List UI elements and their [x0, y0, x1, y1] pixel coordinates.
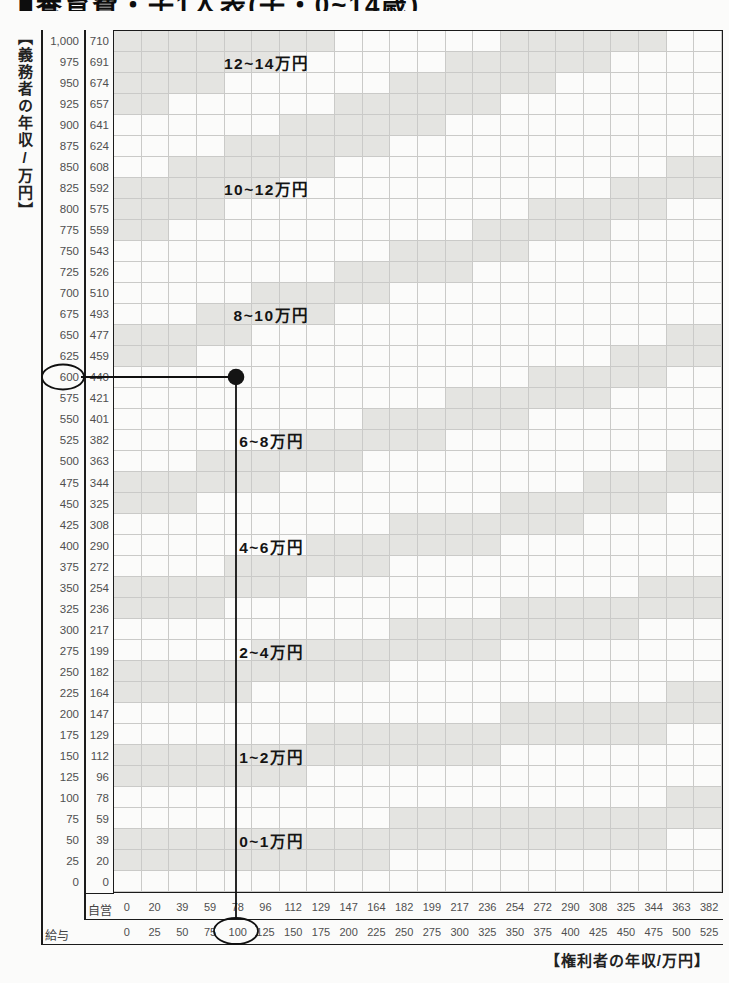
y-self-value: 147: [86, 704, 109, 725]
x-self-value: 382: [695, 895, 723, 919]
y-self-value: 543: [86, 240, 109, 261]
zone-label: 12~14万円: [224, 51, 310, 73]
x-salary-value: 175: [307, 920, 335, 944]
y-salary-value: 625: [42, 346, 79, 367]
x-self-value: 325: [612, 895, 640, 919]
y-salary-value: 25: [42, 851, 79, 872]
page-title-text: ■養育費・子1人表(子・0~14歳): [18, 0, 718, 11]
x-salary-value: 475: [640, 920, 668, 944]
x-self-value: 78: [224, 895, 252, 919]
y-salary-value: 400: [42, 535, 79, 556]
y-salary-value: 325: [42, 598, 79, 619]
x-self-value: 20: [141, 895, 169, 919]
x-axis-self-employed-values: 0203959789611212914716418219921723625427…: [113, 895, 723, 919]
y-self-value: 440: [86, 367, 109, 388]
y-salary-value: 475: [42, 472, 79, 493]
y-salary-value: 0: [42, 872, 79, 893]
y-salary-value: 350: [42, 577, 79, 598]
y-self-value: 254: [86, 577, 109, 598]
y-salary-value: 600: [42, 367, 79, 388]
x-salary-value: 525: [695, 920, 723, 944]
x-row-label-salary: 給与: [45, 926, 69, 943]
y-self-value: 608: [86, 156, 109, 177]
y-salary-value: 575: [42, 388, 79, 409]
x-self-value: 39: [168, 895, 196, 919]
x-salary-value: 500: [668, 920, 696, 944]
y-self-value: 129: [86, 725, 109, 746]
y-salary-value: 875: [42, 135, 79, 156]
y-self-value: 592: [86, 177, 109, 198]
x-salary-value: 425: [584, 920, 612, 944]
x-self-value: 254: [501, 895, 529, 919]
y-salary-value: 775: [42, 219, 79, 240]
x-self-value: 96: [252, 895, 280, 919]
y-salary-value: 200: [42, 704, 79, 725]
x-axis-salary-values: 0255075100125150175200225250275300325350…: [113, 920, 723, 944]
y-self-value: 325: [86, 493, 109, 514]
x-salary-value: 225: [363, 920, 391, 944]
x-self-value: 236: [473, 895, 501, 919]
x-self-value: 344: [640, 895, 668, 919]
x-salary-value: 25: [141, 920, 169, 944]
zone-label: 4~6万円: [239, 535, 305, 557]
y-salary-value: 650: [42, 325, 79, 346]
y-self-value: 363: [86, 451, 109, 472]
zone-label: 1~2万円: [239, 745, 305, 767]
y-self-value: 657: [86, 93, 109, 114]
y-self-value: 691: [86, 51, 109, 72]
y-self-value: 344: [86, 472, 109, 493]
y-self-value: 290: [86, 535, 109, 556]
y-salary-value: 100: [42, 788, 79, 809]
y-salary-value: 900: [42, 114, 79, 135]
y-axis-title: 【義務者の年収/万円】: [14, 30, 34, 270]
zone-label: 8~10万円: [234, 303, 310, 325]
x-self-value: 199: [418, 895, 446, 919]
x-salary-value: 100: [224, 920, 252, 944]
y-self-value: 20: [86, 851, 109, 872]
y-salary-value: 425: [42, 514, 79, 535]
y-self-value: 0: [86, 872, 109, 893]
y-salary-value: 1,000: [42, 30, 79, 51]
y-salary-value: 250: [42, 661, 79, 682]
y-self-value: 401: [86, 409, 109, 430]
x-salary-value: 300: [446, 920, 474, 944]
y-self-value: 199: [86, 640, 109, 661]
x-self-value: 112: [279, 895, 307, 919]
y-self-value: 493: [86, 304, 109, 325]
y-self-value: 459: [86, 346, 109, 367]
zone-label: 0~1万円: [239, 829, 305, 851]
y-self-value: 59: [86, 809, 109, 830]
x-salary-value: 125: [252, 920, 280, 944]
x-salary-value: 450: [612, 920, 640, 944]
x-salary-value: 275: [418, 920, 446, 944]
zone-label: 6~8万円: [239, 429, 305, 451]
x-self-value: 147: [335, 895, 363, 919]
x-salary-value: 50: [168, 920, 196, 944]
y-salary-value: 275: [42, 640, 79, 661]
y-self-value: 308: [86, 514, 109, 535]
scanned-chart-page: { "title_clipped": "■養育費・子1人表(子・0~14歳)",…: [0, 0, 729, 983]
zone-label: 2~4万円: [239, 640, 305, 662]
y-self-value: 382: [86, 430, 109, 451]
y-salary-value: 750: [42, 240, 79, 261]
x-salary-value: 350: [501, 920, 529, 944]
x-self-value: 0: [113, 895, 141, 919]
x-self-value: 129: [307, 895, 335, 919]
y-salary-value: 225: [42, 683, 79, 704]
page-title-clipped: ■養育費・子1人表(子・0~14歳): [18, 0, 718, 11]
zone-label-layer: 12~14万円10~12万円8~10万円6~8万円4~6万円2~4万円1~2万円…: [113, 30, 723, 893]
x-salary-value: 375: [529, 920, 557, 944]
x-self-value: 363: [668, 895, 696, 919]
y-self-value: 182: [86, 661, 109, 682]
y-salary-value: 375: [42, 556, 79, 577]
y-self-value: 526: [86, 262, 109, 283]
x-salary-value: 75: [196, 920, 224, 944]
y-salary-value: 550: [42, 409, 79, 430]
x-self-value: 59: [196, 895, 224, 919]
y-self-value: 575: [86, 198, 109, 219]
zone-label: 10~12万円: [224, 177, 310, 199]
y-axis-salary-values: 1,00097595092590087585082580077575072570…: [42, 30, 79, 893]
x-self-value: 164: [363, 895, 391, 919]
y-self-value: 112: [86, 746, 109, 767]
y-self-value: 164: [86, 683, 109, 704]
